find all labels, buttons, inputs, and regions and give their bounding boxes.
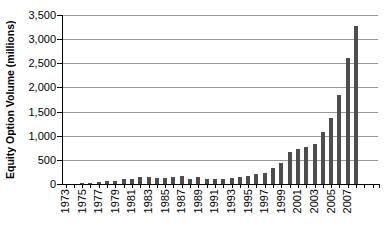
bar-1998: [271, 168, 275, 184]
x-tick-label: 1981: [125, 189, 138, 213]
x-axis-tick: [132, 185, 133, 188]
y-tick-label: 3,000: [8, 33, 56, 45]
y-tick-label: 500: [8, 154, 56, 166]
x-axis-tick: [364, 185, 365, 188]
bar-2008: [354, 26, 358, 184]
x-axis-tick: [165, 185, 166, 188]
x-axis-tick: [115, 185, 116, 188]
x-axis-end-tick: [379, 185, 380, 188]
bar-2006: [337, 95, 341, 184]
gridline: [62, 112, 378, 113]
y-tick-label: 2,500: [8, 57, 56, 69]
x-tick-label: 1979: [109, 189, 122, 213]
x-tick-label: 1989: [192, 189, 205, 213]
y-axis-line: [62, 15, 63, 185]
x-axis-tick: [306, 185, 307, 188]
bar-2007: [346, 58, 350, 184]
bar-2001: [296, 149, 300, 184]
gridline: [62, 63, 378, 64]
x-axis-tick: [157, 185, 158, 188]
x-axis-tick: [323, 185, 324, 188]
x-tick-label: 2007: [341, 189, 354, 213]
x-axis-tick: [207, 185, 208, 188]
x-axis-tick: [99, 185, 100, 188]
x-axis-tick: [331, 185, 332, 188]
x-axis-tick: [248, 185, 249, 188]
x-axis-tick: [90, 185, 91, 188]
x-tick-label: 1973: [59, 189, 72, 213]
bar-2005: [329, 118, 333, 184]
y-tick-label: 3,500: [8, 9, 56, 21]
bar-1996: [254, 174, 258, 184]
x-axis-tick: [339, 185, 340, 188]
x-tick-label: 1993: [225, 189, 238, 213]
gridline: [62, 87, 378, 88]
bar-1995: [246, 176, 250, 184]
x-axis-tick: [66, 185, 67, 188]
bar-1997: [263, 173, 267, 184]
x-axis-tick: [298, 185, 299, 188]
y-tick-label: 1,000: [8, 130, 56, 142]
x-axis-tick: [256, 185, 257, 188]
bar-1994: [238, 177, 242, 184]
x-axis-tick: [173, 185, 174, 188]
x-tick-label: 1977: [92, 189, 105, 213]
bar-1999: [279, 163, 283, 184]
x-axis-tick: [215, 185, 216, 188]
x-axis-tick: [348, 185, 349, 188]
x-axis-tick: [107, 185, 108, 188]
x-axis-tick: [223, 185, 224, 188]
bar-2002: [304, 147, 308, 184]
x-tick-label: 1987: [175, 189, 188, 213]
x-axis-line: [62, 184, 380, 185]
x-tick-label: 1999: [275, 189, 288, 213]
x-axis-tick: [232, 185, 233, 188]
x-axis-tick: [373, 185, 374, 188]
x-tick-label: 2001: [291, 189, 304, 213]
x-tick-label: 1983: [142, 189, 155, 213]
x-axis-tick: [290, 185, 291, 188]
y-tick-label: 1,500: [8, 106, 56, 118]
x-tick-label: 2003: [308, 189, 321, 213]
x-tick-label: 1975: [76, 189, 89, 213]
x-axis-tick: [273, 185, 274, 188]
equity-option-volume-bar-chart: Equity Option Volume (millions) 05001,00…: [0, 0, 385, 226]
x-axis-tick: [356, 185, 357, 188]
x-axis-tick: [149, 185, 150, 188]
x-axis-tick: [265, 185, 266, 188]
x-tick-label: 1991: [208, 189, 221, 213]
y-tick-label: 2,000: [8, 81, 56, 93]
x-axis-tick: [198, 185, 199, 188]
bar-1986: [171, 177, 175, 184]
x-tick-label: 1997: [258, 189, 271, 213]
bar-1989: [196, 177, 200, 184]
x-tick-label: 1985: [159, 189, 172, 213]
x-axis-tick: [281, 185, 282, 188]
x-axis-tick: [124, 185, 125, 188]
x-axis-tick: [140, 185, 141, 188]
x-axis-tick: [315, 185, 316, 188]
bar-1983: [147, 177, 151, 184]
bar-2000: [288, 152, 292, 185]
gridline: [62, 15, 378, 16]
bar-1987: [180, 176, 184, 184]
y-tick-label: 0: [8, 178, 56, 190]
x-axis-tick: [240, 185, 241, 188]
x-axis-tick: [182, 185, 183, 188]
x-axis-tick: [74, 185, 75, 188]
gridline: [62, 39, 378, 40]
bar-1982: [138, 177, 142, 184]
x-axis-tick: [190, 185, 191, 188]
bar-2004: [321, 132, 325, 184]
x-tick-label: 2005: [325, 189, 338, 213]
bar-2003: [313, 144, 317, 184]
x-axis-tick: [82, 185, 83, 188]
x-tick-label: 1995: [242, 189, 255, 213]
